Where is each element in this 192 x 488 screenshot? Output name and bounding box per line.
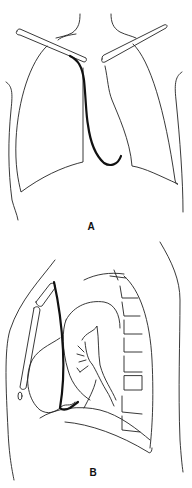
vertebra	[122, 396, 142, 414]
panel-a-label: A	[87, 221, 94, 232]
panel-a-frontal-view: A	[0, 0, 192, 240]
right-lung-outline	[16, 46, 83, 192]
vertebra	[122, 302, 140, 316]
catheter-line-frontal	[70, 56, 121, 165]
frontal-chest-drawing: A	[0, 0, 192, 240]
diaphragm-lower	[65, 422, 152, 453]
vertebra	[124, 376, 142, 390]
sternum-body	[20, 307, 40, 390]
vertebra	[120, 286, 138, 298]
anterior-body-outline	[6, 260, 55, 480]
spine-front-line	[124, 276, 153, 448]
vertebral-column	[120, 286, 142, 432]
aortic-arch	[66, 302, 120, 328]
ivc-lower-branch	[84, 380, 96, 408]
heart-outline	[28, 338, 75, 413]
vertebra	[124, 320, 142, 334]
right-clavicle	[102, 25, 167, 63]
chest-wall-right	[175, 72, 183, 212]
spine-cross-mark	[110, 270, 126, 280]
panel-b-lateral-view: B	[0, 240, 192, 488]
diaphragm-upper	[40, 408, 150, 440]
vertebra	[124, 356, 142, 372]
neck-left-line	[56, 14, 80, 38]
neck-right-line	[111, 14, 136, 38]
sternum-manubrium	[36, 283, 55, 306]
posterior-body-outline	[160, 242, 183, 472]
lateral-chest-drawing: B	[0, 240, 192, 488]
trachea	[82, 326, 116, 400]
xiphoid	[18, 392, 22, 400]
catheter-line-lateral	[54, 282, 78, 410]
panel-b-label: B	[89, 467, 96, 478]
bronchus	[85, 342, 114, 406]
vertebra	[124, 338, 142, 352]
